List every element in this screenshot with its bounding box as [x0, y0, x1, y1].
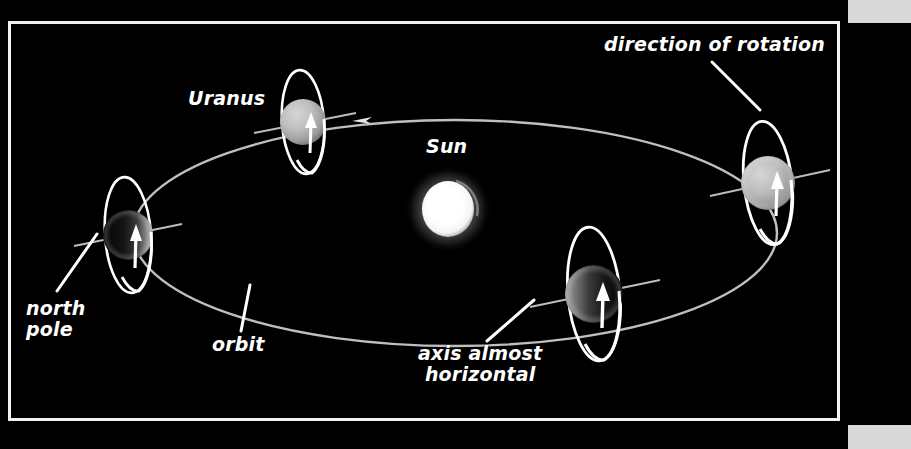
page-corner-block-top-right — [848, 0, 911, 23]
label-orbit: orbit — [212, 334, 265, 355]
label-sun: Sun — [426, 136, 467, 157]
page-corner-block-bottom-right — [848, 425, 911, 449]
diagram-canvas: direction of rotation Uranus Sun north p… — [0, 0, 911, 449]
label-uranus: Uranus — [188, 88, 265, 109]
label-direction-of-rotation: direction of rotation — [604, 34, 825, 55]
label-north-pole: north pole — [26, 298, 86, 341]
label-axis-almost-horizontal: axis almost horizontal — [418, 343, 542, 386]
